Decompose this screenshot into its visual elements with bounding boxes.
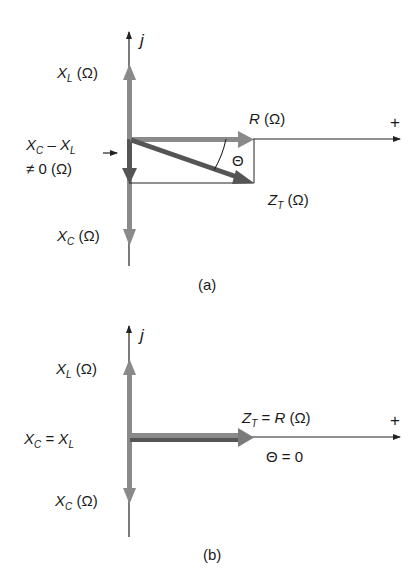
zt-label-a: ZT (Ω) bbox=[268, 192, 309, 211]
theta-arc-a bbox=[214, 139, 226, 170]
caption-a: (a) bbox=[198, 277, 216, 292]
xl-label-b: XL (Ω) bbox=[56, 361, 97, 380]
r-label-a: R (Ω) bbox=[249, 111, 285, 126]
xc-label-b: XC (Ω) bbox=[55, 493, 98, 512]
caption-b: (b) bbox=[203, 547, 221, 562]
theta-zero-label-b: Θ = 0 bbox=[266, 449, 303, 464]
net-reactance-label-a: XC – XL ≠ 0 (Ω) bbox=[26, 136, 76, 178]
panel-a bbox=[103, 32, 400, 266]
xl-phasor-arrow-a bbox=[123, 64, 136, 140]
xl-label-a: XL (Ω) bbox=[57, 65, 98, 84]
real-axis-plus-label-a: + bbox=[390, 114, 400, 131]
real-axis-plus-label-b: + bbox=[390, 412, 400, 429]
zt-equals-r-label-b: ZT = R (Ω) bbox=[242, 410, 311, 429]
net-reactance-arrow-a bbox=[122, 139, 137, 184]
xl-phasor-arrow-b bbox=[123, 359, 136, 438]
xc-equals-xl-label-b: XC = XL bbox=[24, 431, 74, 450]
panel-b bbox=[123, 326, 400, 537]
xc-label-a: XC (Ω) bbox=[57, 228, 100, 247]
imaginary-axis-label-a: j bbox=[140, 32, 144, 49]
theta-label-a: Θ bbox=[232, 153, 244, 168]
imaginary-axis-label-b: j bbox=[140, 327, 144, 344]
zt-equals-r-phasor-arrow-b bbox=[130, 428, 254, 447]
xc-phasor-arrow-b bbox=[123, 437, 136, 504]
